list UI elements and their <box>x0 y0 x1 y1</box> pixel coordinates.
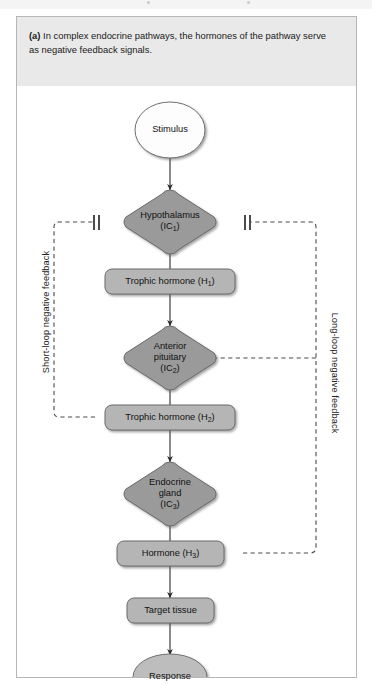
caption-part-text: In complex endocrine pathways, the hormo… <box>29 30 326 55</box>
node-target-tissue[interactable] <box>127 598 214 623</box>
node-trophic-hormone-2[interactable] <box>105 405 235 430</box>
diagram-canvas <box>17 86 356 677</box>
figure-caption: (a) In complex endocrine pathways, the h… <box>29 29 334 56</box>
figure-panel: (a) In complex endocrine pathways, the h… <box>16 16 357 678</box>
node-endocrine-gland[interactable] <box>124 462 216 526</box>
node-hormone-3[interactable] <box>117 541 224 566</box>
figure-caption-band: (a) In complex endocrine pathways, the h… <box>17 17 356 86</box>
long-loop-feedback-path <box>243 222 316 553</box>
short-loop-feedback-label: Short-loop negative feedback <box>41 242 51 382</box>
short-loop-feedback-path <box>54 222 95 417</box>
page-top-strip <box>0 0 372 9</box>
caption-part-label: (a) <box>29 30 40 41</box>
node-anterior-pituitary[interactable] <box>124 326 216 390</box>
node-stimulus[interactable] <box>135 102 205 158</box>
long-loop-feedback-label: Long-loop negative feedback <box>330 298 340 448</box>
strip-dot <box>247 1 250 4</box>
node-response[interactable] <box>133 654 207 677</box>
node-hypothalamus[interactable] <box>124 190 216 254</box>
endocrine-pathway-diagram: Stimulus Hypothalamus (IC1) Trophic horm… <box>17 86 356 677</box>
node-trophic-hormone-1[interactable] <box>105 269 235 294</box>
strip-dot <box>147 1 150 4</box>
